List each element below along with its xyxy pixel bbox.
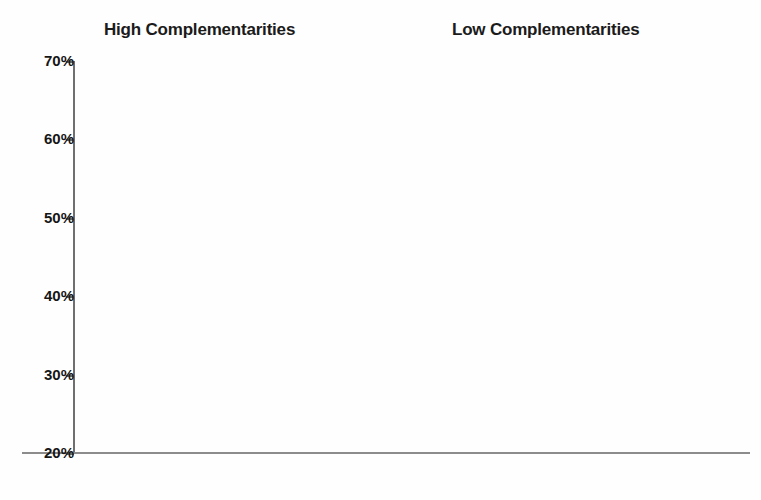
plot-area bbox=[0, 0, 761, 453]
bar-chart-figure: High Complementarities Low Complementari… bbox=[0, 0, 761, 500]
